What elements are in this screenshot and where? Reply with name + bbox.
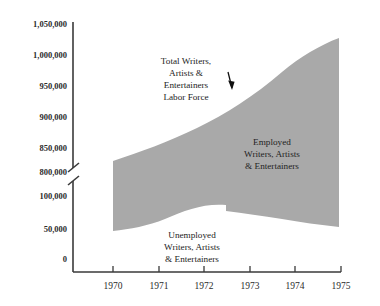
unemployed-label-line-1: Unemployed	[168, 230, 216, 240]
y-tick-label-950000: 950,000	[39, 81, 67, 91]
y-tick-label-1000000: 1,000,000	[33, 50, 67, 60]
y-tick-label-850000: 850,000	[39, 143, 67, 153]
total-label-line-3: Entertainers	[164, 80, 209, 90]
total-label-line-2: Artists &	[169, 68, 203, 78]
x-axis	[73, 266, 341, 272]
y-tick-label-100000: 100,000	[39, 191, 67, 201]
arrow-down-icon	[228, 72, 235, 90]
y-tick-label-800000: 800,000	[39, 167, 67, 177]
area-chart: 1,050,000 1,000,000 950,000 900,000 850,…	[0, 0, 380, 306]
y-tick-label-900000: 900,000	[39, 112, 67, 122]
total-label-line-4: Labor Force	[163, 92, 208, 102]
unemployed-annotation: Unemployed Writers, Artists & Entertaine…	[164, 230, 220, 264]
y-tick-label-1050000: 1,050,000	[33, 19, 67, 29]
total-labor-force-annotation: Total Writers, Artists & Entertainers La…	[161, 56, 211, 102]
chart-container: 1,050,000 1,000,000 950,000 900,000 850,…	[0, 0, 380, 306]
x-tick-label-1975: 1975	[332, 281, 351, 291]
employed-label-line-2: Writers, Artists	[244, 149, 300, 159]
x-tick-label-1971: 1971	[150, 281, 169, 291]
employed-label-line-1: Employed	[253, 137, 291, 147]
data-band-group	[113, 38, 339, 231]
x-tick-label-1972: 1972	[195, 281, 214, 291]
x-tick-label-1970: 1970	[104, 281, 123, 291]
y-tick-label-0: 0	[63, 254, 67, 264]
unemployed-label-line-2: Writers, Artists	[164, 242, 220, 252]
total-label-line-1: Total Writers,	[161, 56, 211, 66]
unemployed-label-line-3: & Entertainers	[165, 254, 219, 264]
total-labor-force-band	[113, 38, 339, 231]
employed-label-line-3: & Entertainers	[245, 161, 299, 171]
y-tick-label-50000: 50,000	[44, 224, 67, 234]
x-tick-label-1974: 1974	[286, 281, 305, 291]
x-tick-label-1973: 1973	[241, 281, 260, 291]
y-axis-upper	[68, 22, 79, 272]
